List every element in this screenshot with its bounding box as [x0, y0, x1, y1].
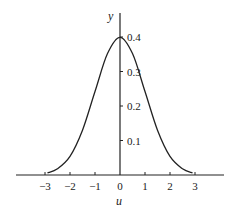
y-tick-label: 0.1	[127, 135, 141, 147]
y-tick-label: 0.2	[127, 100, 141, 112]
x-tick-label: 3	[192, 180, 198, 192]
x-tick-label: −3	[39, 180, 51, 192]
normal-distribution-chart: −3−2−10123 0.10.20.30.4 y u	[0, 0, 230, 220]
y-tick-label: 0.4	[127, 31, 141, 43]
x-tick-label: −1	[89, 180, 101, 192]
x-axis-label: u	[116, 194, 122, 208]
x-tick-label: 1	[142, 180, 148, 192]
y-axis-label: y	[107, 9, 114, 23]
x-tick-label: 0	[117, 180, 123, 192]
plot-area: −3−2−10123 0.10.20.30.4 y u	[0, 0, 230, 220]
x-tick-label: 2	[167, 180, 173, 192]
x-tick-label: −2	[64, 180, 76, 192]
